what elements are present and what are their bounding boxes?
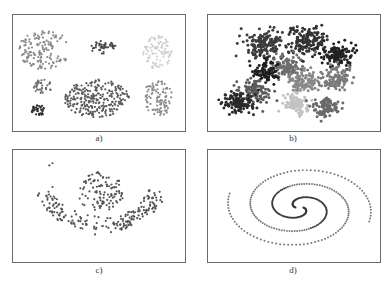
scatter-plot-c [13,150,185,262]
panel-b [207,14,381,132]
caption-d: d) [273,265,313,275]
panel-a [12,14,186,132]
caption-b: b) [273,133,313,143]
caption-c: c) [79,265,119,275]
scatter-plot-d [208,150,380,262]
panel-c [12,149,186,263]
panel-d [207,149,381,263]
caption-a: a) [79,133,119,143]
scatter-plot-a [13,15,185,131]
scatter-plot-b [208,15,380,131]
